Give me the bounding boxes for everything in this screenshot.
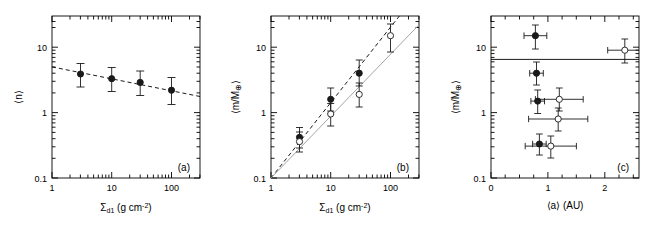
panel-a-ytick-2: 10 xyxy=(37,43,47,53)
data-point xyxy=(531,90,545,114)
panel-b-xtick-2: 100 xyxy=(383,183,398,193)
data-point xyxy=(530,62,544,85)
data-point xyxy=(356,60,363,86)
panel-a-xlabel: Σd1 (g cm-2) xyxy=(100,202,151,214)
panel-b-xtick-0: 1 xyxy=(268,183,273,193)
panel-a-y-ticks xyxy=(52,22,200,179)
panel-b-ytick-0: 0.1 xyxy=(253,174,266,184)
panel-a-xtick-0: 1 xyxy=(49,183,54,193)
data-point xyxy=(387,24,394,52)
data-point xyxy=(533,134,547,155)
panel-b-ylabel: ⟨m/M⊕⟩ xyxy=(230,80,243,114)
panel-b-ytick-1: 1 xyxy=(261,108,266,118)
panel-c-label: (c) xyxy=(617,162,629,173)
panel-b-xtick-1: 10 xyxy=(326,183,336,193)
panel-a-ylabel: ⟨n⟩ xyxy=(13,90,24,104)
panel-a-xtick-2: 100 xyxy=(164,183,179,193)
data-point xyxy=(77,64,85,88)
panel-c-ytick-1: 1 xyxy=(481,108,486,118)
panel-a-svg: 0.1 1 10 1 10 100 Σd1 (g cm-2) ⟨n⟩ (a) xyxy=(0,0,219,226)
panel-c-ylabel: ⟨m/M⊕⟩ xyxy=(450,80,463,114)
figure-container: 0.1 1 10 1 10 100 Σd1 (g cm-2) ⟨n⟩ (a) xyxy=(0,0,659,226)
panel-c-xtick-1: 1 xyxy=(545,183,550,193)
panel-b-frame xyxy=(271,16,419,178)
panel-c-xtick-0: 0 xyxy=(488,183,493,193)
panel-b-x-ticks xyxy=(271,16,419,178)
panel-a-frame xyxy=(52,16,200,178)
panel-c-xlabel: ⟨a⟩ (AU) xyxy=(547,200,584,211)
panel-a-ytick-1: 1 xyxy=(42,108,47,118)
panel-c: 0.1 1 10 0 1 2 ⟨a⟩ (AU) ⟨m/M⊕⟩ (c) xyxy=(439,0,659,226)
data-point xyxy=(108,68,116,92)
panel-c-ytick-0: 0.1 xyxy=(473,174,486,184)
panel-b-svg: 0.1 1 10 1 10 100 Σd1 (g cm-2) ⟨m/M⊕⟩ (b… xyxy=(219,0,439,226)
panel-b-label: (b) xyxy=(397,162,409,173)
panel-c-x-ticks xyxy=(491,16,633,178)
data-point xyxy=(136,71,144,96)
panel-a: 0.1 1 10 1 10 100 Σd1 (g cm-2) ⟨n⟩ (a) xyxy=(0,0,219,226)
panel-c-svg: 0.1 1 10 0 1 2 ⟨a⟩ (AU) ⟨m/M⊕⟩ (c) xyxy=(439,0,659,226)
panel-a-data-series xyxy=(77,64,176,105)
panel-a-fit-line xyxy=(52,67,200,97)
panel-a-ytick-0: 0.1 xyxy=(34,174,47,184)
panel-b-fit-lines xyxy=(271,5,419,179)
panel-b-data-series xyxy=(296,24,394,152)
panel-b-ytick-2: 10 xyxy=(256,43,266,53)
data-point xyxy=(524,25,547,49)
panel-b: 0.1 1 10 1 10 100 Σd1 (g cm-2) ⟨m/M⊕⟩ (b… xyxy=(219,0,439,226)
data-point xyxy=(356,83,363,107)
panel-c-data-series xyxy=(524,25,639,158)
panel-c-frame xyxy=(491,16,639,178)
panel-a-label: (a) xyxy=(178,162,190,173)
panel-c-xtick-2: 2 xyxy=(602,183,607,193)
panel-a-x-ticks xyxy=(52,16,200,178)
panel-c-ytick-2: 10 xyxy=(476,43,486,53)
panel-b-xlabel: Σd1 (g cm-2) xyxy=(319,202,370,214)
data-point xyxy=(327,104,334,127)
panel-a-xtick-1: 10 xyxy=(107,183,117,193)
data-point xyxy=(168,78,176,105)
